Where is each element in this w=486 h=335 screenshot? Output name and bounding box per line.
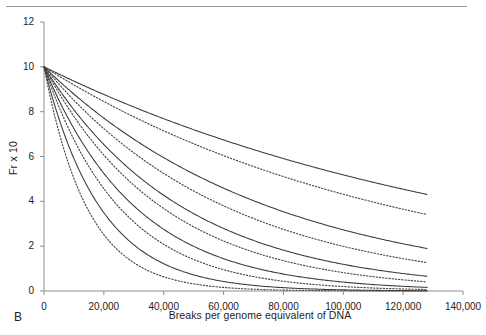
y-tick-label: 0 — [12, 286, 34, 296]
curve-curve-4-bound — [44, 67, 427, 290]
y-tick-label: 4 — [12, 196, 34, 206]
panel-label: B — [14, 310, 22, 324]
axes-group — [40, 22, 463, 295]
y-tick-label: 2 — [12, 241, 34, 251]
curve-curve-3-fit — [44, 67, 427, 276]
curves-group — [44, 67, 427, 291]
y-tick-label: 10 — [12, 62, 34, 72]
curve-curve-3-bound — [44, 67, 427, 282]
curve-curve-5-bound — [44, 67, 427, 291]
curve-curve-2-fit — [44, 67, 427, 249]
curve-curve-5-fit — [44, 67, 427, 291]
curve-curve-4-fit — [44, 67, 427, 288]
curve-curve-1-bound — [44, 67, 427, 215]
curve-curve-1-fit — [44, 67, 427, 195]
y-axis-title: Fr x 10 — [7, 123, 19, 193]
y-tick-label: 12 — [12, 17, 34, 27]
y-tick-label: 8 — [12, 107, 34, 117]
x-axis-title: Breaks per genome equivalent of DNA — [120, 309, 400, 321]
x-tick-label: 140,000 — [431, 302, 486, 312]
